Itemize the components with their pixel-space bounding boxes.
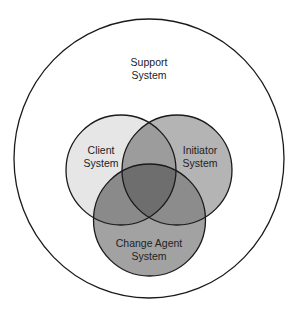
support-system-label-line2: System: [131, 69, 166, 81]
change-agent-system-label-line1: Change Agent: [116, 237, 183, 249]
initiator-system-label-line1: Initiator: [183, 144, 218, 156]
client-system-label-line2: System: [83, 157, 118, 169]
support-system-label-line1: Support: [131, 56, 168, 68]
client-system-label-line1: Client: [88, 144, 115, 156]
initiator-system-label-line2: System: [182, 157, 217, 169]
change-agent-system-label-line2: System: [131, 250, 166, 262]
venn-diagram: Support System Client System Initiator S…: [0, 0, 296, 315]
